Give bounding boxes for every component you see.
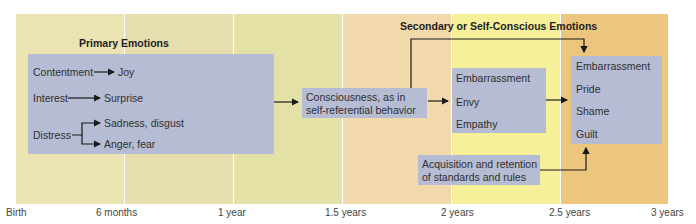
flow-arrows bbox=[0, 0, 696, 224]
